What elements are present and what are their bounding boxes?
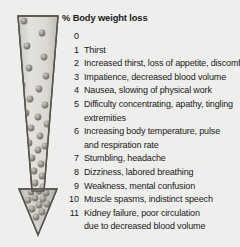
row-symptom-line2: extremities xyxy=(84,112,238,126)
table-row: 3Impatience, decreased blood volume xyxy=(62,71,238,85)
table-row: 7Stumbling, headache xyxy=(62,152,238,166)
page-title: % Body weight loss xyxy=(62,13,238,24)
row-percent-value: 10 xyxy=(62,193,84,207)
row-symptom-line1: Weakness, mental confusion xyxy=(84,181,195,191)
row-percent-value: 7 xyxy=(62,152,84,166)
row-symptom-line1: Nausea, slowing of physical work xyxy=(84,85,212,95)
table-row: 8Dizziness, labored breathing xyxy=(62,166,238,180)
row-percent-value: 1 xyxy=(62,44,84,58)
row-symptom-line1: Impatience, decreased blood volume xyxy=(84,72,226,82)
row-symptom-text: Weakness, mental confusion xyxy=(84,180,238,194)
row-symptom-line1: Muscle spasms, indistinct speech xyxy=(84,194,213,204)
arrow-head xyxy=(19,189,57,235)
row-symptom-text: Kidney failure, poor circulationdue to d… xyxy=(84,207,238,234)
row-symptom-text: Impatience, decreased blood volume xyxy=(84,71,238,85)
row-symptom-line1: Thirst xyxy=(84,45,106,55)
row-symptom-text: Increased thirst, loss of appetite, disc… xyxy=(84,57,240,71)
row-symptom-line1: Dizziness, labored breathing xyxy=(84,167,193,177)
row-percent-value: 0 xyxy=(62,30,84,44)
row-symptom-text: Stumbling, headache xyxy=(84,152,238,166)
row-symptom-text: Dizziness, labored breathing xyxy=(84,166,238,180)
row-symptom-text: Increasing body temperature, pulseand re… xyxy=(84,125,238,152)
row-percent-value: 6 xyxy=(62,125,84,139)
row-symptom-line2: due to decreased blood volume xyxy=(84,220,238,234)
row-percent-value: 8 xyxy=(62,166,84,180)
symptom-rows: 01Thirst2Increased thirst, loss of appet… xyxy=(62,30,238,234)
row-symptom-line1: Kidney failure, poor circulation xyxy=(84,208,200,218)
symptom-list-panel: % Body weight loss 01Thirst2Increased th… xyxy=(62,13,238,241)
row-symptom-line1: Increased thirst, loss of appetite, disc… xyxy=(84,58,240,68)
table-row: 1Thirst xyxy=(62,44,238,58)
row-percent-value: 5 xyxy=(62,98,84,112)
table-row: 4Nausea, slowing of physical work xyxy=(62,84,238,98)
row-percent-value: 9 xyxy=(62,180,84,194)
row-percent-value: 11 xyxy=(62,207,84,221)
water-loss-arrow-graphic xyxy=(9,13,67,241)
table-row: 2Increased thirst, loss of appetite, dis… xyxy=(62,57,238,71)
table-row: 6Increasing body temperature, pulseand r… xyxy=(62,125,238,152)
row-symptom-line1: Increasing body temperature, pulse xyxy=(84,126,220,136)
table-row: 11Kidney failure, poor circulationdue to… xyxy=(62,207,238,234)
row-symptom-line2: and respiration rate xyxy=(84,139,238,153)
table-row: 9Weakness, mental confusion xyxy=(62,180,238,194)
row-symptom-line1: Stumbling, headache xyxy=(84,153,166,163)
row-symptom-text: Difficulty concentrating, apathy, tingli… xyxy=(84,98,238,125)
dehydration-symptoms-figure: % Body weight loss 01Thirst2Increased th… xyxy=(0,0,240,247)
table-row: 5Difficulty concentrating, apathy, tingl… xyxy=(62,98,238,125)
row-percent-value: 2 xyxy=(62,57,84,71)
row-symptom-line1: Difficulty concentrating, apathy, tingli… xyxy=(84,99,233,109)
table-row: 10Muscle spasms, indistinct speech xyxy=(62,193,238,207)
row-percent-value: 4 xyxy=(62,84,84,98)
row-symptom-text: Thirst xyxy=(84,44,238,58)
row-symptom-text: Nausea, slowing of physical work xyxy=(84,84,238,98)
row-percent-value: 3 xyxy=(62,71,84,85)
down-arrow-icon xyxy=(9,13,67,241)
table-row: 0 xyxy=(62,30,238,44)
row-symptom-text: Muscle spasms, indistinct speech xyxy=(84,193,238,207)
